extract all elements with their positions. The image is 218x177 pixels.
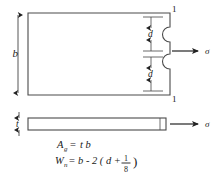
eq2-equals: =	[69, 155, 75, 166]
eq1-lhs-subscript: g	[64, 145, 68, 153]
dimension-t-label: t	[16, 119, 19, 129]
eq2-lhs-subscript: n	[64, 161, 68, 169]
figure-container: b d d 1 1 σ	[0, 0, 218, 177]
eq1-rhs: t b	[80, 139, 91, 150]
stress-label-top: σ	[205, 46, 210, 56]
equation-gross-area: A g = t b	[56, 139, 91, 153]
engineering-diagram: b d d 1 1 σ	[0, 0, 218, 177]
eq1-lhs-symbol: A	[56, 139, 64, 150]
eq2-rhs-prefix: b - 2 ( d +	[78, 155, 121, 167]
equation-net-width: W n = b - 2 ( d + 1 8 )	[55, 154, 137, 174]
stress-label-side: σ	[205, 119, 210, 129]
section-label-bottom: 1	[172, 94, 177, 104]
fraction-numerator: 1	[124, 154, 128, 163]
fraction-denominator: 8	[124, 165, 128, 174]
plate-edge-view	[28, 118, 166, 130]
eq1-equals: =	[70, 139, 76, 150]
dimension-d-upper-label: d	[148, 29, 153, 39]
stress-arrow-side: σ	[170, 119, 210, 129]
fraction-one-eighth: 1 8	[122, 154, 131, 174]
stress-arrow-top: σ	[172, 46, 210, 56]
dimension-b-label: b	[13, 47, 19, 59]
eq2-rhs-suffix: )	[133, 154, 137, 169]
dimension-t: t	[16, 112, 19, 136]
dimension-d-lower-label: d	[148, 69, 153, 79]
plate-outline	[28, 13, 170, 95]
section-label-top: 1	[172, 4, 177, 14]
dimension-b: b	[13, 15, 19, 93]
